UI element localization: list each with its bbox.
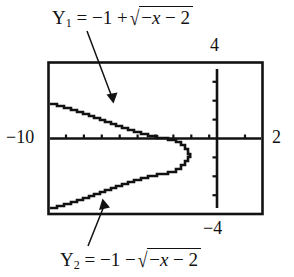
y2-radicand-a: − — [149, 249, 160, 270]
y1-radicand-a: − — [141, 7, 152, 28]
equation-label-y1: Y1 = −1 +√−x − 2 — [52, 6, 193, 29]
y1-radical: √−x − 2 — [128, 6, 193, 28]
window-ymax-label: 4 — [210, 36, 219, 54]
y1-equals: = — [76, 7, 87, 28]
window-ymin-label: −4 — [203, 219, 222, 237]
y1-subscript: 1 — [66, 16, 72, 30]
radical-sign-icon: √ — [138, 250, 148, 271]
y1-radicand-var: x — [152, 7, 160, 28]
y1-name: Y — [52, 7, 66, 28]
y2-radical: √−x − 2 — [136, 248, 201, 270]
radical-sign-icon: √ — [130, 8, 140, 29]
y1-radicand-b: − 2 — [165, 7, 190, 28]
plot-canvas — [0, 0, 294, 277]
y2-radicand-b: − 2 — [173, 249, 198, 270]
y2-radicand-var: x — [160, 249, 168, 270]
graph-figure: Y1 = −1 +√−x − 2 Y2 = −1 −√−x − 2 −10 2 … — [0, 0, 294, 277]
window-xmin-label: −10 — [6, 128, 34, 146]
window-xmax-label: 2 — [272, 128, 281, 146]
y2-lead: −1 − — [100, 249, 136, 270]
y2-name: Y — [60, 249, 74, 270]
y2-equals: = — [84, 249, 95, 270]
y1-lead: −1 + — [92, 7, 128, 28]
equation-label-y2: Y2 = −1 −√−x − 2 — [60, 248, 201, 271]
y2-subscript: 2 — [74, 258, 80, 272]
